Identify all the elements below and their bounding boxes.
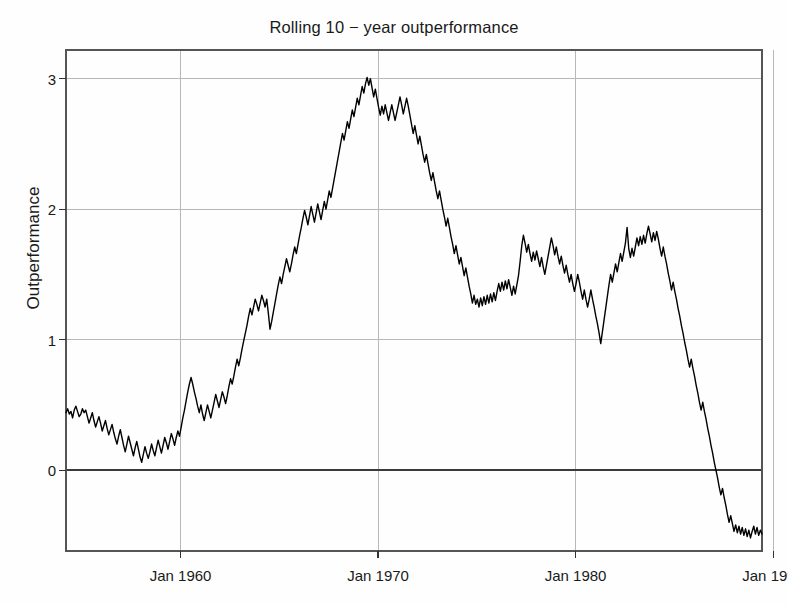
- plot-border: [66, 50, 762, 551]
- plot-area: [0, 0, 788, 605]
- x-tick-label: Jan 1960: [150, 567, 212, 584]
- x-tick-label: Jan 1970: [347, 567, 409, 584]
- x-tick-label: Jan 1990: [742, 567, 788, 584]
- data-series-line: [66, 77, 762, 538]
- series-line-outperformance: [66, 77, 762, 538]
- axis-ticks: [59, 79, 788, 558]
- y-tick-label: 1: [30, 331, 56, 348]
- y-tick-label: 3: [30, 70, 56, 87]
- plot-frame: [66, 50, 762, 551]
- y-tick-label: 2: [30, 201, 56, 218]
- chart-figure: Rolling 10 − year outperformance Outperf…: [0, 0, 788, 605]
- x-tick-label: Jan 1980: [545, 567, 607, 584]
- y-tick-label: 0: [30, 462, 56, 479]
- grid-lines: [66, 50, 788, 551]
